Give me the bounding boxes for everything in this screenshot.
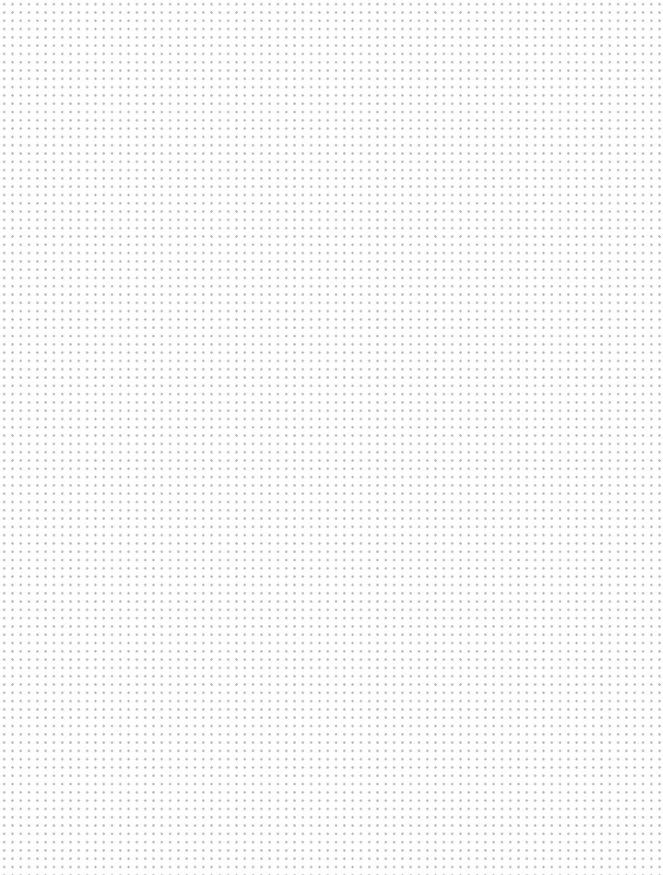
- canvas-surface[interactable]: [0, 0, 663, 875]
- canvas-content-area[interactable]: [0, 0, 663, 875]
